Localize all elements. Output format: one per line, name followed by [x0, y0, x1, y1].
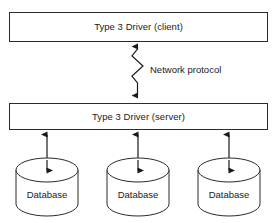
node-type3-driver-client: Type 3 Driver (client)	[9, 12, 268, 42]
network-protocol-connector	[132, 47, 143, 96]
edge-label-network-protocol: Network protocol	[150, 65, 221, 75]
node-type3-driver-server: Type 3 Driver (server)	[9, 103, 268, 130]
node-label-client: Type 3 Driver (client)	[94, 22, 183, 32]
network-protocol-zigzag-line	[132, 47, 143, 96]
database-label-1: Database	[16, 190, 78, 200]
diagram-canvas: Type 3 Driver (client) Type 3 Driver (se…	[0, 0, 276, 223]
database-label-2: Database	[107, 190, 169, 200]
database-label-3: Database	[198, 190, 260, 200]
node-label-server: Type 3 Driver (server)	[92, 112, 185, 122]
